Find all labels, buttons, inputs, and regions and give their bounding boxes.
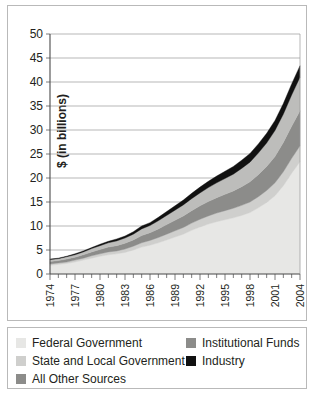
- svg-text:35: 35: [30, 99, 44, 113]
- svg-text:25: 25: [30, 147, 44, 161]
- svg-text:1992: 1992: [194, 284, 206, 308]
- svg-text:40: 40: [30, 75, 44, 89]
- legend-swatch-icon: [186, 356, 196, 366]
- legend-label: Institutional Funds: [202, 337, 299, 350]
- legend-swatch-icon: [16, 356, 26, 366]
- svg-text:1977: 1977: [69, 284, 81, 308]
- svg-text:1998: 1998: [244, 284, 256, 308]
- legend-column-right: Institutional Funds Industry: [186, 334, 299, 370]
- svg-text:10: 10: [30, 219, 44, 233]
- svg-text:50: 50: [30, 27, 44, 41]
- svg-text:1980: 1980: [94, 284, 106, 308]
- legend-item: State and Local Government: [16, 352, 185, 370]
- svg-text:1974: 1974: [44, 284, 56, 308]
- svg-text:1989: 1989: [169, 284, 181, 308]
- legend-label: All Other Sources: [32, 373, 126, 386]
- area-layers: [50, 66, 300, 274]
- y-tick-labels: 05101520253035404550: [30, 27, 44, 281]
- legend-item: All Other Sources: [16, 370, 185, 388]
- legend-item: Federal Government: [16, 334, 185, 352]
- legend-item: Industry: [186, 352, 299, 370]
- legend-item: Institutional Funds: [186, 334, 299, 352]
- svg-text:15: 15: [30, 195, 44, 209]
- legend-label: Federal Government: [32, 337, 142, 350]
- svg-text:1986: 1986: [144, 284, 156, 308]
- plot-area-frame: $ (in billions) 05101520253035404550 197…: [7, 5, 307, 321]
- svg-text:2004: 2004: [294, 284, 306, 308]
- svg-text:2001: 2001: [269, 284, 281, 308]
- legend-swatch-icon: [186, 338, 196, 348]
- legend-swatch-icon: [16, 374, 26, 384]
- svg-text:45: 45: [30, 51, 44, 65]
- legend-swatch-icon: [16, 338, 26, 348]
- svg-text:1995: 1995: [219, 284, 231, 308]
- legend-label: Industry: [202, 355, 245, 368]
- svg-text:1983: 1983: [119, 284, 131, 308]
- svg-text:30: 30: [30, 123, 44, 137]
- stacked-area-chart: 05101520253035404550 1974197719801983198…: [8, 6, 308, 322]
- chart-figure: $ (in billions) 05101520253035404550 197…: [0, 0, 315, 394]
- x-tick-labels: 1974197719801983198619891992199519982001…: [44, 284, 306, 308]
- svg-text:20: 20: [30, 171, 44, 185]
- x-axis-ticks: [50, 274, 300, 280]
- chart-legend: Federal Government State and Local Gover…: [7, 327, 307, 389]
- legend-label: State and Local Government: [32, 355, 185, 368]
- legend-column-left: Federal Government State and Local Gover…: [16, 334, 185, 388]
- svg-text:5: 5: [36, 243, 43, 257]
- svg-text:0: 0: [36, 267, 43, 281]
